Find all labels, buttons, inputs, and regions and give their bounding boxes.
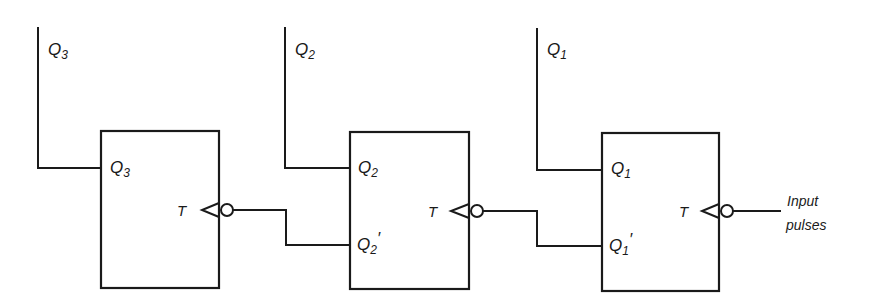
flipflop-2: Q2 Q2 Q2′ T xyxy=(285,27,483,289)
q2-complement-pin-label: Q2′ xyxy=(357,229,381,257)
clock-triangle-2-icon xyxy=(451,204,469,218)
q2-output-line-label: Q2 xyxy=(295,40,315,62)
q1-complement-to-t2-wire xyxy=(483,211,602,246)
inversion-bubble-3-icon xyxy=(221,204,233,216)
input-label-line2: pulses xyxy=(785,217,826,233)
q3-pin-label: Q3 xyxy=(110,158,130,180)
inversion-bubble-2-icon xyxy=(471,205,483,217)
q2-complement-to-t3-wire xyxy=(233,210,350,245)
flipflop-3: Q3 Q3 T xyxy=(38,27,233,288)
q1-complement-pin-label: Q1′ xyxy=(609,230,633,258)
q2-pin-label: Q2 xyxy=(358,158,378,180)
q1-output-line-label: Q1 xyxy=(547,40,567,62)
input-label-line1: Input xyxy=(787,193,819,209)
t2-pin-label: T xyxy=(428,203,439,220)
clock-triangle-3-icon xyxy=(202,203,219,217)
flipflop-1-box xyxy=(602,133,719,291)
t3-pin-label: T xyxy=(177,202,188,219)
q3-output-line-label: Q3 xyxy=(48,40,68,62)
t1-pin-label: T xyxy=(679,203,690,220)
clock-triangle-1-icon xyxy=(702,204,719,218)
ripple-counter-diagram: Q3 Q3 T Q2 Q2 Q2′ T Q1 Q1 Q1′ T Input pu… xyxy=(0,0,874,305)
inversion-bubble-1-icon xyxy=(721,205,733,217)
q1-pin-label: Q1 xyxy=(611,159,631,181)
flipflop-1: Q1 Q1 Q1′ T xyxy=(537,28,733,291)
